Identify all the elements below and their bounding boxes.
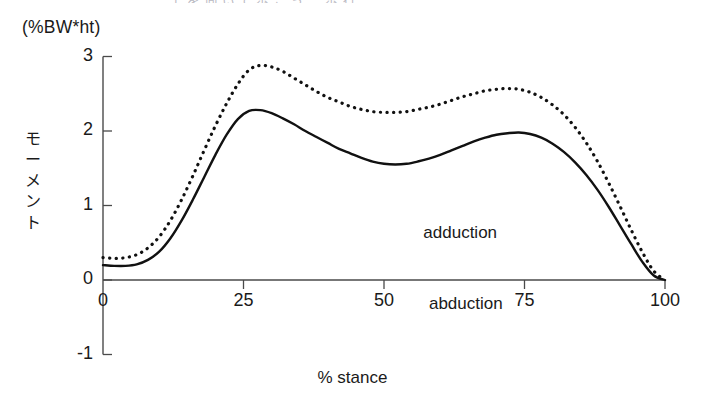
region-label-adduction: adduction	[423, 223, 497, 243]
series-group	[103, 65, 665, 280]
y-tick-label-0: 0	[63, 268, 93, 289]
y-tick-label-1: 1	[63, 194, 93, 215]
y-tick-label--1: -1	[63, 343, 93, 364]
x-tick-label-25: 25	[221, 290, 267, 311]
plot-area	[0, 0, 705, 400]
x-tick-label-0: 0	[80, 290, 126, 311]
x-tick-label-100: 100	[642, 290, 688, 311]
x-axis-caption: % stance	[0, 368, 705, 388]
region-label-abduction: abduction	[429, 294, 503, 314]
series-dotted-curve	[103, 65, 665, 280]
y-tick-label-2: 2	[63, 119, 93, 140]
x-tick-label-50: 50	[361, 290, 407, 311]
chart-figure: 上 を 向 い て 歩 こ う 歩 行 (%BW*ht) モ ー メ ン ト -…	[0, 0, 705, 400]
y-tick-label-3: 3	[63, 45, 93, 66]
x-tick-label-75: 75	[502, 290, 548, 311]
series-solid-curve	[103, 110, 665, 280]
